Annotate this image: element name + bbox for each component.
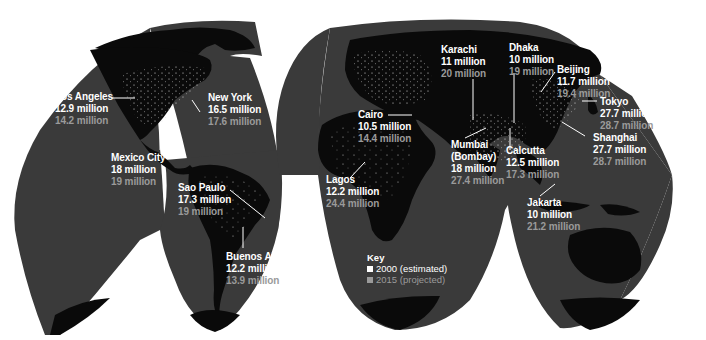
value-2015: 14.4 million: [358, 133, 411, 145]
value-2000: 18 million: [451, 163, 504, 175]
city-name-line1: Mumbai: [451, 139, 504, 151]
legend-item-2000: 2000 (estimated): [367, 263, 447, 274]
city-label-new-york: New York 16.5 million 17.6 million: [208, 92, 261, 128]
lobe-pacific-south: [15, 230, 160, 335]
legend-item-2015: 2015 (projected): [367, 274, 447, 285]
city-name: Tokyo: [600, 96, 653, 108]
value-2000: 11.7 million: [557, 76, 610, 88]
value-2015: 20 million: [441, 68, 486, 80]
map-legend: Key 2000 (estimated) 2015 (projected): [367, 252, 447, 285]
city-name: Sao Paulo: [178, 182, 231, 194]
city-name: Dhaka: [509, 42, 554, 54]
city-name: Calcutta: [506, 145, 559, 157]
value-2000: 27.7 million: [593, 144, 646, 156]
legend-swatch-2000: [367, 266, 373, 272]
value-2015: 24.4 million: [326, 198, 379, 210]
value-2000: 11 million: [441, 56, 486, 68]
city-label-tokyo: Tokyo 27.7 million 28.7 million: [600, 96, 653, 132]
city-name: Karachi: [441, 44, 486, 56]
city-label-calcutta: Calcutta 12.5 million 17.3 million: [506, 145, 559, 181]
value-2000: 18 million: [111, 164, 165, 176]
city-label-buenos-aires: Buenos Aires 12.2 million 13.9 million: [226, 251, 289, 287]
city-label-beijing: Beijing 11.7 million 19.4 million: [557, 64, 610, 100]
city-name: Shanghai: [593, 132, 646, 144]
city-label-mexico-city: Mexico City 18 million 19 million: [111, 152, 165, 188]
value-2015: 19 million: [509, 66, 554, 78]
value-2000: 12.2 million: [226, 263, 289, 275]
city-label-jakarta: Jakarta 10 million 21.2 million: [527, 197, 580, 233]
city-name: Beijing: [557, 64, 610, 76]
world-map: [0, 0, 706, 340]
city-name: New York: [208, 92, 261, 104]
city-label-shanghai: Shanghai 27.7 million 28.7 million: [593, 132, 646, 168]
city-name-line2: (Bombay): [451, 151, 504, 163]
value-2000: 10 million: [527, 209, 580, 221]
city-name: Jakarta: [527, 197, 580, 209]
value-2015: 19 million: [178, 206, 231, 218]
city-name: Mexico City: [111, 152, 165, 164]
land-antarctica-2: [190, 310, 240, 332]
city-name: Los Angeles: [55, 91, 113, 103]
legend-swatch-2015: [367, 277, 373, 283]
value-2015: 13.9 million: [226, 275, 289, 287]
value-2000: 27.7 million: [600, 108, 653, 120]
value-2000: 17.3 million: [178, 194, 231, 206]
city-name: Lagos: [326, 174, 379, 186]
city-label-karachi: Karachi 11 million 20 million: [441, 44, 486, 80]
city-name: Cairo: [358, 109, 411, 121]
legend-label-2015: 2015 (projected): [376, 274, 445, 285]
value-2015: 17.6 million: [208, 116, 261, 128]
value-2015: 28.7 million: [593, 156, 646, 168]
legend-label-2000: 2000 (estimated): [376, 263, 447, 274]
city-label-los-angeles: Los Angeles 12.9 million 14.2 million: [55, 91, 113, 127]
city-label-sao-paulo: Sao Paulo 17.3 million 19 million: [178, 182, 231, 218]
value-2015: 19 million: [111, 176, 165, 188]
value-2000: 16.5 million: [208, 104, 261, 116]
value-2000: 12.5 million: [506, 157, 559, 169]
city-label-cairo: Cairo 10.5 million 14.4 million: [358, 109, 411, 145]
value-2015: 28.7 million: [600, 120, 653, 132]
value-2000: 10 million: [509, 54, 554, 66]
legend-title: Key: [367, 252, 447, 263]
value-2015: 14.2 million: [55, 115, 113, 127]
value-2000: 10.5 million: [358, 121, 411, 133]
city-name: Buenos Aires: [226, 251, 289, 263]
city-label-lagos: Lagos 12.2 million 24.4 million: [326, 174, 379, 210]
city-label-mumbai: Mumbai (Bombay) 18 million 27.4 million: [451, 139, 504, 187]
value-2015: 21.2 million: [527, 221, 580, 233]
value-2015: 17.3 million: [506, 169, 559, 181]
value-2015: 27.4 million: [451, 175, 504, 187]
city-label-dhaka: Dhaka 10 million 19 million: [509, 42, 554, 78]
value-2000: 12.2 million: [326, 186, 379, 198]
value-2000: 12.9 million: [55, 103, 113, 115]
